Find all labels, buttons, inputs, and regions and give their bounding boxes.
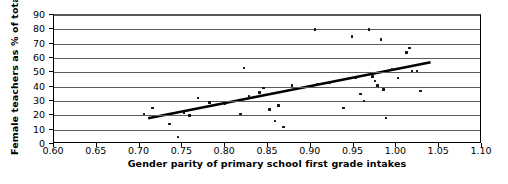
y-tick-label: 30	[19, 95, 45, 106]
y-tick-mark	[49, 71, 53, 72]
y-gridline	[54, 15, 480, 16]
scatter-chart: Female teachers as % of total Gender par…	[0, 0, 508, 184]
data-point	[416, 70, 419, 73]
y-tick-mark	[49, 43, 53, 44]
data-point	[258, 91, 261, 94]
x-tick-mark	[310, 143, 311, 147]
data-point	[397, 77, 400, 80]
y-gridline	[54, 72, 480, 73]
x-tick-mark	[481, 143, 482, 147]
data-point	[419, 90, 422, 93]
data-point	[208, 101, 211, 104]
y-tick-label: 40	[19, 80, 45, 91]
data-point	[376, 84, 379, 87]
y-tick-mark	[49, 100, 53, 101]
x-tick-mark	[267, 143, 268, 147]
data-point	[224, 103, 227, 106]
y-tick-label: 80	[19, 23, 45, 34]
data-point	[262, 87, 265, 90]
y-tick-mark	[49, 129, 53, 130]
data-point	[408, 47, 411, 50]
plot-area	[53, 14, 481, 143]
data-point	[359, 93, 362, 96]
data-point	[248, 95, 251, 98]
y-gridline	[54, 29, 480, 30]
data-point	[177, 136, 180, 139]
data-point	[342, 107, 345, 110]
y-tick-label: 60	[19, 52, 45, 63]
data-point	[151, 107, 154, 110]
y-gridline	[54, 58, 480, 59]
data-point	[282, 126, 285, 129]
data-point	[354, 77, 357, 80]
data-point	[371, 75, 374, 78]
data-point	[314, 28, 317, 31]
data-point	[374, 80, 377, 83]
data-point	[239, 113, 242, 116]
y-gridline	[54, 44, 480, 45]
y-tick-mark	[49, 57, 53, 58]
y-tick-mark	[49, 28, 53, 29]
y-tick-label: 20	[19, 109, 45, 120]
trend-line	[54, 15, 482, 144]
data-point	[328, 81, 331, 84]
data-point	[382, 88, 385, 91]
y-gridline	[54, 87, 480, 88]
data-point	[363, 100, 366, 103]
data-point	[291, 84, 294, 87]
y-tick-mark	[49, 14, 53, 15]
data-point	[411, 70, 414, 73]
y-tick-label: 10	[19, 123, 45, 134]
y-gridline	[54, 115, 480, 116]
data-point	[351, 35, 354, 38]
data-point	[391, 68, 394, 71]
data-point	[385, 117, 388, 120]
data-point	[277, 104, 280, 107]
data-point	[183, 111, 186, 114]
data-point	[380, 38, 383, 41]
data-point	[168, 123, 171, 126]
x-axis-title: Gender parity of primary school first gr…	[53, 158, 481, 169]
y-gridline	[54, 130, 480, 131]
x-tick-mark	[353, 143, 354, 147]
data-point	[368, 28, 371, 31]
data-point	[405, 51, 408, 54]
y-tick-mark	[49, 86, 53, 87]
x-tick-mark	[224, 143, 225, 147]
data-point	[316, 83, 319, 86]
x-tick-mark	[96, 143, 97, 147]
data-point	[143, 113, 146, 116]
y-tick-label: 50	[19, 66, 45, 77]
data-point	[188, 114, 191, 117]
data-point	[274, 120, 277, 123]
y-tick-label: 70	[19, 37, 45, 48]
x-tick-mark	[438, 143, 439, 147]
x-tick-mark	[139, 143, 140, 147]
y-tick-mark	[49, 114, 53, 115]
data-point	[243, 67, 246, 70]
data-point	[268, 108, 271, 111]
x-tick-mark	[181, 143, 182, 147]
data-point	[197, 97, 200, 100]
x-tick-mark	[53, 143, 54, 147]
y-gridline	[54, 101, 480, 102]
y-tick-label: 90	[19, 9, 45, 20]
x-tick-mark	[395, 143, 396, 147]
